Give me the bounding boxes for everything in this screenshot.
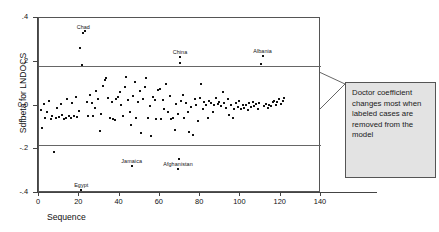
data-point [169,95,171,97]
point-label-jamaica: Jamaica [121,158,142,164]
data-point [182,94,184,96]
data-point [102,85,104,87]
data-point [195,104,197,106]
data-point [87,115,89,117]
data-point [270,105,272,107]
data-point [100,113,102,115]
data-point [60,103,62,105]
data-point [257,108,259,110]
data-point [230,104,232,106]
data-point [76,116,78,118]
data-point [131,165,133,167]
data-point [119,91,121,93]
data-point [58,116,60,118]
data-point [248,102,250,104]
data-point [120,104,122,106]
data-point [278,98,280,100]
data-point [280,103,282,105]
point-label-afghanistan: Afghanistan [163,161,193,167]
data-point [75,96,77,98]
data-point [272,101,274,103]
x-axis-line [37,192,377,193]
data-point [237,106,239,108]
x-tick-mark [159,192,160,196]
data-point [188,131,190,133]
data-point [134,81,136,83]
data-point [197,120,199,122]
data-point [174,129,176,131]
data-point [56,107,58,109]
data-point [252,101,254,103]
reference-line-2 [39,145,321,146]
data-point [144,86,146,88]
data-point [44,117,46,119]
data-point [233,108,235,110]
data-point [180,100,182,102]
data-point [262,55,264,57]
x-tick-label: 40 [104,197,134,206]
data-point [235,102,237,104]
data-point [154,99,156,101]
data-point [142,98,144,100]
data-point [243,107,245,109]
data-point [220,105,222,107]
y-tick-mark [33,61,37,62]
data-point [107,97,109,99]
data-point [139,90,141,92]
data-point [66,98,68,100]
data-point [200,83,202,85]
y-tick-label: -.4 [4,187,28,196]
y-tick-mark [33,17,37,18]
data-point [267,107,269,109]
y-tick-mark [33,105,37,106]
data-point [253,105,255,107]
plot-frame: ChadChinaAlbaniaJamaicaAfghanistanEgypt [38,17,320,192]
data-point [163,108,165,110]
data-point [213,104,215,106]
data-point [82,32,84,34]
x-tick-label: 0 [23,197,53,206]
x-tick-label: 60 [144,197,174,206]
data-point [194,98,196,100]
point-label-chad: Chad [77,24,90,30]
data-point [217,103,219,105]
data-point [46,111,48,113]
data-point [175,103,177,105]
data-point [283,97,285,99]
x-tick-label: 140 [305,197,335,206]
x-axis-title: Sequence [47,212,86,222]
data-point [125,76,127,78]
data-point [240,108,242,110]
data-point [78,110,80,112]
data-point [122,115,124,117]
y-tick-mark [33,192,37,193]
data-point [199,97,201,99]
data-point [99,130,101,132]
data-point [51,115,53,117]
data-point [160,118,162,120]
data-point [124,86,126,88]
data-point [147,117,149,119]
data-point [84,30,86,32]
data-point [91,102,93,104]
data-point [187,111,189,113]
data-point [111,101,113,103]
x-tick-mark [320,192,321,196]
data-point [109,117,111,119]
data-point [92,115,94,117]
data-point [162,99,164,101]
data-point [222,91,224,93]
plot-area: ChadChinaAlbaniaJamaicaAfghanistanEgypt [39,18,319,191]
data-point [223,102,225,104]
data-point [129,111,131,113]
x-tick-label: 100 [224,197,254,206]
data-point [79,47,81,49]
data-point [242,104,244,106]
data-point [190,106,192,108]
y-tick-label: .4 [4,12,28,21]
data-point [81,64,83,66]
data-point [183,117,185,119]
data-point [61,114,63,116]
data-point [165,83,167,85]
data-point [238,100,240,102]
